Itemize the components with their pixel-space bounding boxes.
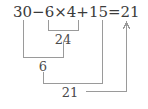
step-3-result-label: 21 bbox=[60, 86, 80, 99]
answer-arrow-line bbox=[86, 24, 127, 92]
math-diagram-canvas: 30−6×4+15=21 24 6 21 bbox=[0, 0, 148, 109]
bracket-step-1 bbox=[49, 20, 79, 31]
step-2-result-label: 6 bbox=[33, 60, 53, 73]
bracket-step-3 bbox=[44, 20, 103, 84]
step-1-result-label: 24 bbox=[53, 33, 73, 46]
